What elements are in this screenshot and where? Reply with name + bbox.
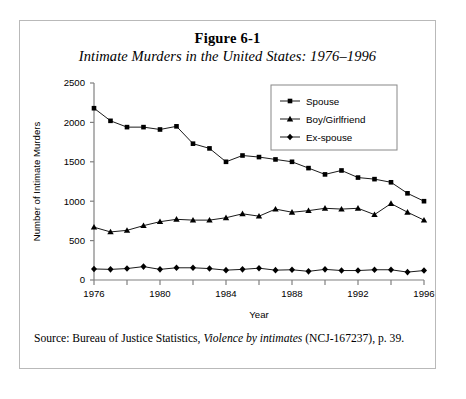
data-point-square [240, 153, 245, 158]
data-point-diamond [339, 267, 345, 274]
y-axis-tick-labels: 05001000150020002500 [64, 77, 85, 285]
data-point-diamond [190, 264, 196, 271]
line-chart-svg: 05001000150020002500 1976198019841988199… [20, 77, 435, 325]
data-point-diamond [306, 268, 312, 275]
source-prefix: Source: Bureau of Justice Statistics, [34, 332, 203, 345]
legend-label: Boy/Girlfriend [306, 114, 365, 125]
data-point-square [273, 157, 278, 162]
data-point-triangle [239, 211, 245, 217]
figure-number: Figure 6-1 [20, 30, 435, 47]
y-tick-label: 2500 [64, 77, 85, 88]
data-point-square [174, 124, 179, 129]
data-point-square [389, 180, 394, 185]
data-point-square [356, 175, 361, 180]
data-point-square [306, 166, 311, 171]
data-point-square [339, 168, 344, 173]
data-point-square [257, 155, 262, 160]
y-tick-label: 500 [69, 235, 85, 246]
data-point-diamond [141, 263, 147, 270]
data-point-triangle [404, 209, 410, 215]
data-point-diamond [421, 267, 427, 274]
data-point-square [405, 191, 410, 196]
legend-label: Ex-spouse [306, 132, 353, 143]
x-tick-label: 1976 [83, 288, 104, 299]
data-point-square [92, 106, 97, 111]
source-note: Source: Bureau of Justice Statistics, Vi… [34, 331, 426, 346]
data-point-square [290, 160, 295, 165]
data-point-square [141, 125, 146, 130]
x-tick-label: 1992 [347, 288, 368, 299]
data-point-diamond [355, 267, 361, 274]
data-point-diamond [372, 266, 378, 273]
data-point-triangle [91, 224, 97, 230]
data-point-diamond [388, 266, 394, 273]
data-point-triangle [421, 217, 427, 223]
figure-subtitle: Intimate Murders in the United States: 1… [20, 47, 435, 66]
data-point-square [125, 125, 130, 130]
series-boy-girlfriend [91, 200, 427, 234]
x-tick-label: 1984 [215, 288, 237, 299]
data-point-diamond [91, 266, 97, 273]
data-point-triangle [322, 205, 328, 211]
data-point-diamond [405, 269, 411, 276]
source-suffix: (NCJ-167237), p. 39. [302, 332, 404, 345]
data-point-triangle [173, 216, 179, 222]
x-axis-tick-labels: 197619801984198819921996 [83, 288, 434, 299]
chart-legend: SpouseBoy/GirlfriendEx-spouse [271, 85, 397, 150]
data-point-square [422, 199, 427, 204]
data-point-square [323, 172, 328, 177]
data-point-square [372, 177, 377, 182]
data-point-diamond [207, 265, 213, 272]
data-point-diamond [289, 266, 295, 273]
data-point-diamond [256, 265, 262, 272]
data-point-diamond [174, 264, 180, 271]
y-tick-label: 1000 [64, 196, 85, 207]
data-point-triangle [388, 200, 394, 206]
data-point-triangle [272, 206, 278, 212]
legend-label: Spouse [306, 96, 340, 107]
data-point-square [224, 160, 229, 165]
data-point-triangle [355, 205, 361, 211]
x-tick-label: 1996 [413, 288, 434, 299]
y-tick-label: 1500 [64, 156, 85, 167]
y-axis-title: Number of Intimate Murders [31, 122, 42, 242]
data-point-diamond [273, 267, 279, 274]
figure-container: Figure 6-1 Intimate Murders in the Unite… [19, 20, 436, 369]
data-point-diamond [240, 266, 246, 273]
data-point-diamond [157, 266, 163, 273]
series-ex-spouse [91, 263, 427, 275]
data-point-square [191, 141, 196, 146]
data-point-diamond [108, 266, 114, 273]
data-point-diamond [223, 267, 229, 274]
data-point-square [108, 119, 113, 124]
x-tick-label: 1988 [281, 288, 302, 299]
data-point-square [158, 127, 163, 132]
chart-plot: 05001000150020002500 1976198019841988199… [20, 77, 435, 325]
data-point-square [207, 146, 212, 151]
data-point-diamond [322, 266, 328, 273]
data-point-diamond [124, 265, 130, 272]
x-axis-title: Year [249, 309, 269, 320]
figure-title-block: Figure 6-1 Intimate Murders in the Unite… [20, 21, 435, 66]
y-tick-label: 2000 [64, 117, 85, 128]
data-point-square [288, 99, 293, 104]
y-tick-label: 0 [80, 274, 85, 285]
x-tick-label: 1980 [149, 288, 170, 299]
source-title: Violence by intimates [203, 332, 302, 345]
